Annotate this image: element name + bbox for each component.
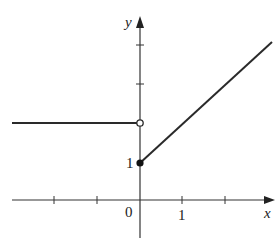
open-circle-endpoint [137,120,143,126]
y-axis-arrow-icon [136,16,144,28]
x-axis-label: x [263,205,271,221]
x-tick-label: 1 [178,207,186,223]
y-tick-label: 1 [126,155,134,171]
x-axis [12,196,275,204]
y-axis [136,16,144,238]
function-graph: y x 0 1 1 [0,0,279,239]
y-axis-label: y [123,14,132,30]
x-axis-arrow-icon [264,196,275,204]
right-linear-ray [140,42,272,163]
origin-label: 0 [125,204,133,220]
filled-dot-endpoint [136,159,143,166]
